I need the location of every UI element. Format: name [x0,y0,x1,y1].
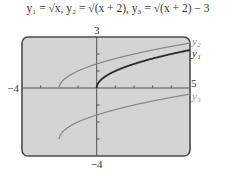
label-y3: y₃ [191,90,201,102]
label-y2: y₂ [191,35,201,47]
label-y1: y₁ [191,47,201,59]
ymax-label: 3 [94,24,100,36]
xmax-label: 5 [191,77,197,89]
graph-plot: 3−4−45y₂y₁y₃ [0,0,236,187]
xmin-label: −4 [7,82,19,94]
ymin-label: −4 [91,158,103,170]
